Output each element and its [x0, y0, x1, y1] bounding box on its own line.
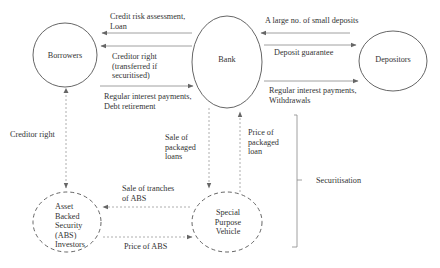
securitisation-brace [292, 115, 302, 247]
securitisation-diagram: Borrowers Bank Depositors Asset Backed S… [0, 0, 440, 268]
depositor-payments-edge-label: Regular interest payments, Withdrawals [269, 86, 357, 105]
securitisation-label: Securitisation [316, 176, 361, 186]
borrowers-label: Borrowers [40, 51, 90, 61]
sale-packaged-loans-edge-label: Sale of packaged loans [165, 133, 196, 162]
sale-tranches-edge-label: Sale of tranches of ABS [122, 184, 174, 203]
abs-investors-label: Asset Backed Security (ABS) Investors [55, 202, 85, 250]
spv-label: Special Purpose Vehicle [204, 208, 252, 237]
bank-label: Bank [207, 55, 247, 65]
creditor-right-edge-label: Creditor right (transferred if securitis… [112, 52, 157, 81]
guarantee-edge-label: Deposit guarantee [274, 48, 333, 58]
price-abs-edge-label: Price of ABS [124, 242, 167, 252]
borrower-payments-edge-label: Regular interest payments, Debt retireme… [104, 92, 192, 111]
deposits-edge-label: A large no. of small deposits [265, 16, 359, 26]
creditor-right-abs-edge-label: Creditor right [10, 130, 55, 140]
depositors-label: Depositors [366, 55, 420, 65]
arrowhead-up-borrowers [64, 88, 69, 93]
loan-edge-label: Credit risk assessment, Loan [110, 12, 185, 31]
price-packaged-loan-edge-label: Price of packaged loan [248, 128, 279, 157]
